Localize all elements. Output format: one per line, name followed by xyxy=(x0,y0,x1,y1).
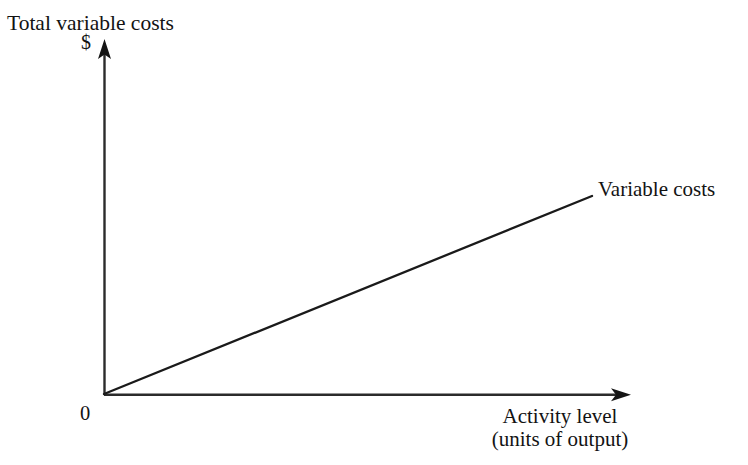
y-axis-unit-label: $ xyxy=(81,32,91,54)
series-label-variable-costs: Variable costs xyxy=(598,178,715,201)
variable-costs-figure: Total variable costs $ 0 Variable costs … xyxy=(0,0,748,465)
x-axis-caption: Activity level (units of output) xyxy=(472,405,648,450)
x-axis-caption-line-2: (units of output) xyxy=(472,428,648,451)
x-axis-caption-line-1: Activity level xyxy=(472,405,648,428)
variable-costs-line xyxy=(104,196,592,394)
chart-plot-area xyxy=(0,0,748,465)
origin-label: 0 xyxy=(80,402,90,424)
